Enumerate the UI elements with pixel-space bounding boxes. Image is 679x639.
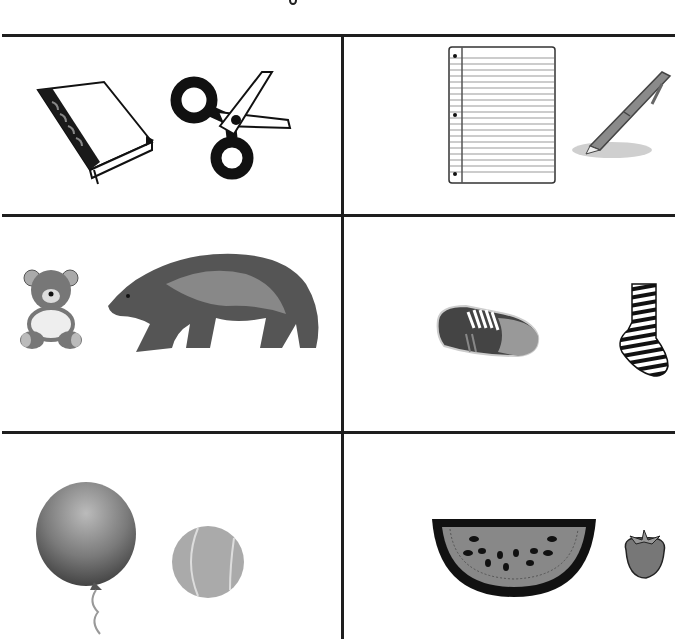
sneaker-icon <box>436 302 540 360</box>
grid-line-vertical-center <box>341 34 344 639</box>
book-icon <box>34 78 154 178</box>
grid-line-top <box>2 34 675 37</box>
scissors-icon <box>172 68 296 180</box>
balloon-icon <box>36 482 140 639</box>
pen-icon <box>572 62 672 162</box>
teddy-bear-icon <box>18 268 84 350</box>
watermelon-slice-icon <box>430 515 598 599</box>
grid-line-row-2-3 <box>2 431 675 434</box>
strawberry-icon <box>622 528 668 580</box>
lined-paper-icon <box>448 46 556 184</box>
cut-off-title-glyph <box>289 0 297 5</box>
striped-sock-icon <box>616 282 672 378</box>
grid-line-row-1-2 <box>2 214 675 217</box>
grizzly-bear-icon <box>106 244 326 356</box>
tennis-ball-icon <box>172 526 244 598</box>
